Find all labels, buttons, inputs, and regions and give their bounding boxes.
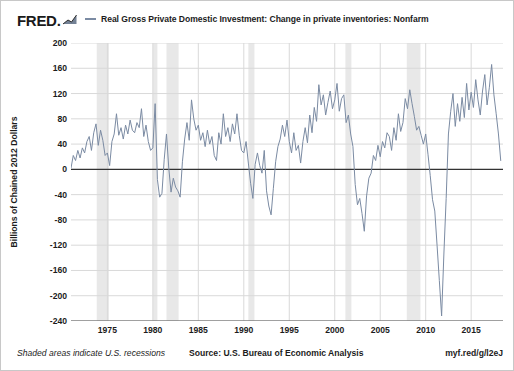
x-axis-tick-label: 1980 bbox=[143, 325, 162, 335]
y-axis-tick-label: -200 bbox=[21, 291, 67, 301]
x-axis-tick-label: 2010 bbox=[416, 325, 435, 335]
y-axis-tick-label: -240 bbox=[21, 316, 67, 326]
plot-area bbox=[71, 43, 503, 321]
y-axis-tick-label: 0 bbox=[21, 164, 67, 174]
series-plot bbox=[71, 43, 503, 321]
chart-header: FRED. Real Gross Private Domestic Invest… bbox=[1, 1, 514, 33]
x-axis-tick-label: 1985 bbox=[189, 325, 208, 335]
legend-line-swatch bbox=[85, 18, 96, 20]
x-axis-tick-label: 1975 bbox=[98, 325, 117, 335]
y-axis-tick-label: 160 bbox=[21, 63, 67, 73]
y-axis-tick-label: 200 bbox=[21, 38, 67, 48]
rising-chart-icon bbox=[63, 14, 77, 25]
legend-series-label: Real Gross Private Domestic Investment: … bbox=[101, 14, 429, 24]
x-axis-tick-label: 1990 bbox=[234, 325, 253, 335]
y-axis-tick-label: 120 bbox=[21, 89, 67, 99]
y-axis-title-text: Billions of Chained 2012 Dollars bbox=[9, 117, 19, 248]
y-axis-tick-label: -120 bbox=[21, 240, 67, 250]
data-source: Source: U.S. Bureau of Economic Analysis bbox=[189, 348, 363, 358]
recession-band bbox=[153, 43, 158, 321]
x-axis-tick-label: 2000 bbox=[325, 325, 344, 335]
recession-band bbox=[407, 43, 421, 321]
y-axis-tick-label: 80 bbox=[21, 114, 67, 124]
chart-legend: Real Gross Private Domestic Investment: … bbox=[85, 14, 429, 24]
short-url: myf.red/g/l2eJ bbox=[445, 348, 503, 358]
x-axis-ticks: 197519801985199019952000200520102015 bbox=[71, 323, 503, 339]
x-axis-tick-label: 2005 bbox=[371, 325, 390, 335]
x-axis-tick-label: 2015 bbox=[462, 325, 481, 335]
y-axis-ticks: 20016012080400-40-80-120-160-200-240 bbox=[19, 43, 67, 321]
y-axis-tick-label: -80 bbox=[21, 215, 67, 225]
recession-note: Shaded areas indicate U.S. recessions bbox=[17, 348, 165, 358]
data-series-line bbox=[71, 64, 501, 315]
y-axis-tick-label: -160 bbox=[21, 265, 67, 275]
y-axis-tick-label: 40 bbox=[21, 139, 67, 149]
y-axis-tick-label: -40 bbox=[21, 190, 67, 200]
x-axis-tick-label: 1995 bbox=[280, 325, 299, 335]
chart-footer: Shaded areas indicate U.S. recessions So… bbox=[1, 346, 514, 366]
fred-chart-figure: FRED. Real Gross Private Domestic Invest… bbox=[0, 0, 514, 371]
recession-band bbox=[345, 43, 351, 321]
fred-logo: FRED. bbox=[17, 12, 61, 29]
